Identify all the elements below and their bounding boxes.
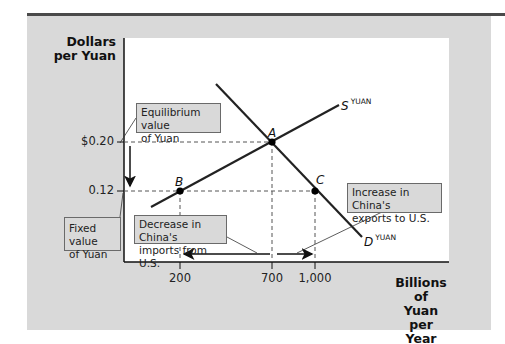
y-tick-high: $0.20 (76, 134, 114, 148)
point-c (311, 187, 318, 194)
exports-callout: Increase in China's exports to U.S. (347, 183, 442, 213)
x-tick-1000: 1,000 (292, 271, 338, 285)
x-tick-700: 700 (252, 271, 292, 285)
point-c-label: C (316, 173, 324, 187)
point-b-label: B (175, 175, 183, 189)
imports-callout: Decrease in China's imports from U.S. (134, 215, 227, 244)
y-tick-low: 0.12 (76, 183, 114, 197)
demand-label: DYUAN (364, 233, 396, 249)
fixed-value-callout: Fixed value of Yuan (64, 217, 121, 251)
equilibrium-callout: Equilibrium value of Yuan (136, 103, 221, 133)
y-axis-title: Dollars per Yuan (50, 35, 116, 63)
point-a-label: A (268, 126, 276, 140)
x-tick-200: 200 (160, 271, 200, 285)
x-axis-title: Billions of Yuan per Year (395, 276, 447, 344)
supply-label: SYUAN (341, 97, 371, 113)
